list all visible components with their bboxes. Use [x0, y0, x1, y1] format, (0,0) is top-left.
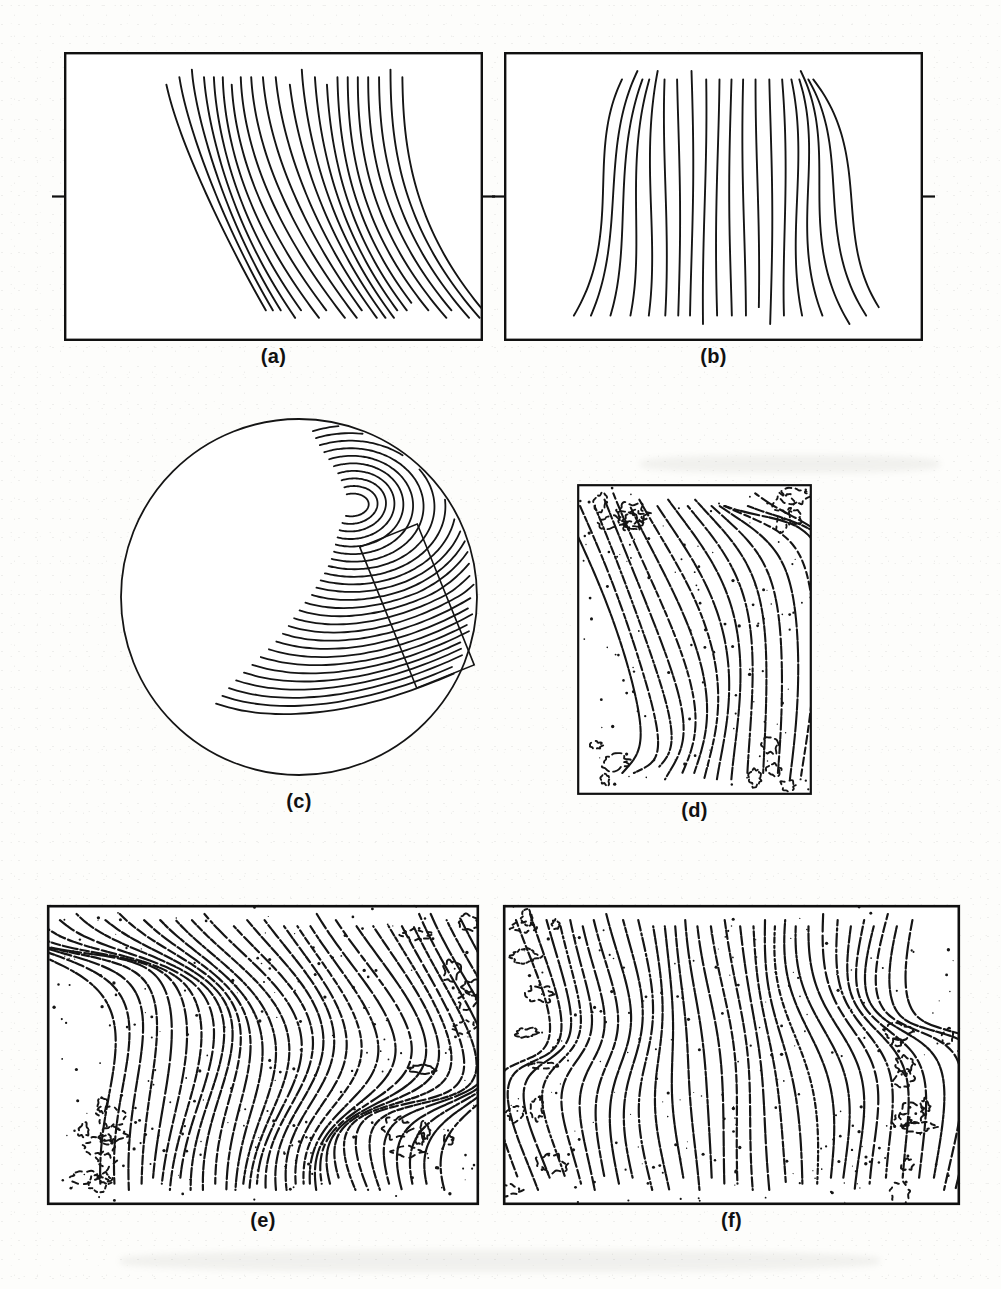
skeleton-speckle [947, 1174, 950, 1177]
skeleton-speckle [158, 1135, 160, 1137]
skeleton-speckle [447, 1129, 449, 1131]
skeleton-speckle [675, 571, 676, 572]
skeleton-speckle [630, 1114, 631, 1115]
skeleton-speckle [97, 916, 100, 919]
skeleton-speckle [400, 1052, 402, 1054]
skeleton-speckle [363, 969, 366, 972]
skeleton-speckle [860, 1105, 863, 1108]
skeleton-speckle [638, 1146, 639, 1147]
skeleton-speckle [383, 1038, 385, 1040]
skeleton-speckle [200, 1141, 202, 1143]
skeleton-speckle [619, 554, 620, 555]
skeleton-speckle [452, 961, 454, 963]
skeleton-speckle [886, 1125, 888, 1127]
skeleton-speckle [419, 938, 422, 941]
skeleton-speckle [292, 1067, 295, 1070]
skeleton-speckle [851, 1149, 853, 1151]
skeleton-speckle [184, 1125, 186, 1127]
skeleton-speckle [864, 1162, 867, 1165]
skeleton-speckle [632, 513, 635, 516]
skeleton-speckle [859, 1187, 860, 1188]
skeleton-speckle [187, 1033, 189, 1035]
skeleton-speckle [724, 623, 727, 626]
skeleton-speckle [755, 939, 756, 940]
panel-c-drawing [104, 402, 494, 792]
skeleton-speckle [305, 1121, 308, 1124]
skeleton-speckle [369, 1007, 370, 1008]
skeleton-speckle [151, 1037, 153, 1039]
panel-e-drawing [31, 889, 495, 1221]
skeleton-speckle [610, 990, 613, 993]
skeleton-speckle [244, 1108, 246, 1110]
skeleton-speckle [734, 1117, 736, 1119]
skeleton-speckle [76, 1099, 79, 1102]
skeleton-speckle [737, 984, 740, 987]
skeleton-speckle [68, 958, 69, 959]
skeleton-speckle [441, 1148, 444, 1151]
skeleton-speckle [291, 1144, 293, 1146]
skeleton-speckle [314, 973, 317, 976]
skeleton-speckle [145, 1012, 146, 1013]
panel-f-caption: (f) [503, 1209, 960, 1232]
skeleton-speckle [653, 759, 656, 762]
skeleton-speckle [676, 995, 679, 998]
skeleton-speckle [276, 1017, 277, 1018]
skeleton-speckle [609, 954, 611, 956]
skeleton-speckle [266, 1110, 268, 1112]
skeleton-speckle [464, 1154, 467, 1157]
skeleton-speckle [825, 1145, 827, 1147]
skeleton-speckle [698, 1048, 701, 1051]
skeleton-speckle [340, 1091, 343, 1094]
skeleton-speckle [936, 1043, 938, 1045]
skeleton-speckle [707, 765, 709, 767]
skeleton-speckle [781, 702, 784, 705]
skeleton-speckle [645, 995, 648, 998]
skeleton-speckle [852, 1165, 853, 1166]
skeleton-speckle [584, 535, 586, 537]
skeleton-speckle [61, 1018, 63, 1020]
skeleton-speckle [807, 788, 809, 790]
skeleton-speckle [275, 1080, 276, 1081]
skeleton-speckle [702, 1153, 705, 1156]
skeleton-speckle [61, 1058, 63, 1060]
skeleton-speckle [628, 776, 630, 778]
skeleton-speckle [698, 1197, 700, 1199]
skeleton-speckle [420, 960, 422, 962]
skeleton-speckle [371, 908, 374, 911]
skeleton-speckle [727, 519, 728, 520]
skeleton-speckle [294, 990, 296, 992]
skeleton-speckle [65, 1022, 67, 1024]
skeleton-speckle [725, 936, 727, 938]
skeleton-speckle [291, 1007, 292, 1008]
skeleton-speckle [687, 1018, 690, 1021]
skeleton-speckle [731, 579, 734, 582]
skeleton-speckle [589, 597, 592, 600]
skeleton-speckle [524, 950, 525, 951]
skeleton-speckle [274, 992, 275, 993]
skeleton-speckle [352, 916, 355, 919]
skeleton-speckle [790, 938, 791, 939]
skeleton-speckle [189, 1179, 191, 1181]
skeleton-speckle [738, 1146, 741, 1149]
skeleton-speckle [733, 728, 735, 730]
skeleton-speckle [361, 1101, 363, 1103]
skeleton-speckle [99, 974, 102, 977]
skeleton-speckle [841, 1055, 843, 1057]
skeleton-speckle [764, 721, 766, 723]
skeleton-speckle [641, 1006, 643, 1008]
skeleton-speckle [710, 510, 712, 512]
skeleton-speckle [317, 962, 320, 965]
skeleton-speckle [721, 1012, 724, 1015]
skeleton-speckle [473, 1164, 476, 1167]
skeleton-speckle [530, 985, 532, 987]
skeleton-speckle [671, 1039, 672, 1040]
skeleton-speckle [633, 538, 635, 540]
skeleton-speckle [148, 1080, 150, 1082]
skeleton-speckle [297, 1108, 298, 1109]
skeleton-speckle [778, 541, 780, 543]
skeleton-speckle [806, 491, 808, 493]
skeleton-speckle [754, 584, 755, 585]
skeleton-speckle [704, 628, 707, 631]
skeleton-speckle [647, 537, 650, 540]
skeleton-speckle [591, 1011, 594, 1014]
